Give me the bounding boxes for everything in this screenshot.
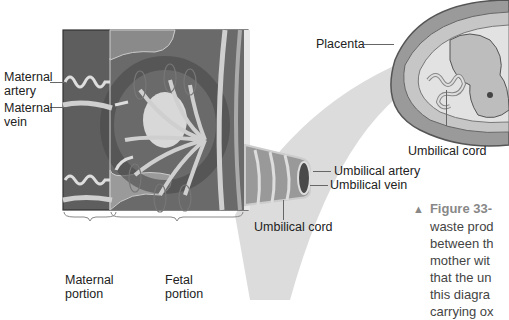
figure-caption: ▲Figure 33- waste prod between th mother…: [413, 200, 494, 320]
caption-line: mother wit: [413, 252, 494, 269]
caption-line: between th: [413, 235, 494, 252]
triangle-marker-icon: ▲: [413, 203, 424, 215]
label-line: Maternal: [4, 101, 53, 115]
label-maternal-vein: Maternal vein: [4, 101, 53, 129]
maternal-portion-brace: [64, 212, 116, 221]
fetal-portion-brace: [111, 212, 243, 221]
label-line: portion: [65, 287, 114, 301]
label-umbilical-artery: Umbilical artery: [334, 164, 420, 178]
umbilical-vein-leader: [310, 185, 328, 186]
label-placenta: Placenta: [316, 37, 365, 51]
uterus-illustration: [391, 0, 509, 146]
caption-line: this diagra: [413, 286, 494, 303]
label-line: Maternal: [65, 273, 114, 287]
label-line: Fetal: [165, 273, 203, 287]
label-line: portion: [165, 287, 203, 301]
placenta-leader: [364, 44, 394, 45]
label-umbilical-cord-top: Umbilical cord: [408, 144, 487, 158]
label-umbilical-vein: Umbilical vein: [330, 178, 407, 192]
placenta-cross-section: [63, 30, 250, 212]
label-maternal-portion: Maternal portion: [65, 273, 114, 301]
umbilical-cord-top-leader: [446, 90, 447, 126]
label-umbilical-cord-bottom: Umbilical cord: [254, 220, 333, 234]
umbilical-artery-leader: [313, 171, 331, 172]
umbilical-cord-bottom-leader: [283, 200, 284, 220]
figure-number: Figure 33-: [430, 201, 492, 216]
label-line: artery: [4, 84, 53, 98]
label-fetal-portion: Fetal portion: [165, 273, 203, 301]
caption-line: waste prod: [413, 218, 494, 235]
label-line: Maternal: [4, 70, 53, 84]
label-line: vein: [4, 115, 53, 129]
caption-line: carrying ox: [413, 303, 494, 320]
label-maternal-artery: Maternal artery: [4, 70, 53, 98]
caption-line: that the un: [413, 269, 494, 286]
